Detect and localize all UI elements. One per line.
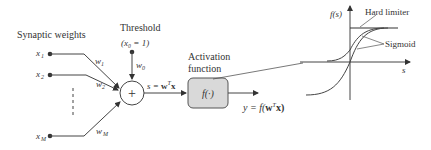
weight-wM: w <box>96 126 102 136</box>
legend-hard-limiter: Hard limiter <box>365 7 409 17</box>
zoom-connector-line <box>213 63 303 79</box>
y-axis-label: f(s) <box>330 9 342 19</box>
svg-text:2: 2 <box>41 74 44 80</box>
output-expression: y = f(wTx) <box>242 102 284 114</box>
svg-text:M: M <box>102 131 109 137</box>
activation-plot: f(s) s Hard limiter Sigmoid <box>300 6 416 100</box>
svg-text:x: x <box>35 131 40 141</box>
sigmoid-curve-1 <box>327 28 384 61</box>
synaptic-weights-label: Synaptic weights <box>17 29 86 40</box>
sum-expression: s = wTx <box>147 80 176 91</box>
summation-node: + <box>120 81 144 105</box>
activation-label: Activation <box>188 51 230 62</box>
threshold-label: Threshold <box>120 22 161 33</box>
activation-label-2: function <box>188 63 221 74</box>
activation-function-box: f(·) <box>188 78 228 108</box>
svg-text:0: 0 <box>142 65 145 71</box>
svg-text:x: x <box>35 48 40 58</box>
input-x2: x 2 w 2 <box>35 69 118 90</box>
svg-text:x: x <box>35 69 40 79</box>
threshold-condition: (x₀ = 1) <box>121 38 149 48</box>
input-xM: x M w M <box>35 102 120 142</box>
svg-text:1: 1 <box>101 61 104 67</box>
bias-input: w 0 <box>130 50 145 79</box>
perceptron-diagram: Synaptic weights x 1 w 1 x 2 w 2 x M w M… <box>0 0 431 150</box>
svg-text:f(·): f(·) <box>202 88 215 100</box>
svg-text:1: 1 <box>41 53 44 59</box>
x-axis-label: s <box>402 65 406 75</box>
input-x1: x 1 w 1 <box>35 48 119 88</box>
legend-sigmoid: Sigmoid <box>385 39 416 49</box>
svg-text:2: 2 <box>102 84 105 90</box>
plus-icon: + <box>128 86 136 101</box>
svg-text:M: M <box>40 136 47 142</box>
